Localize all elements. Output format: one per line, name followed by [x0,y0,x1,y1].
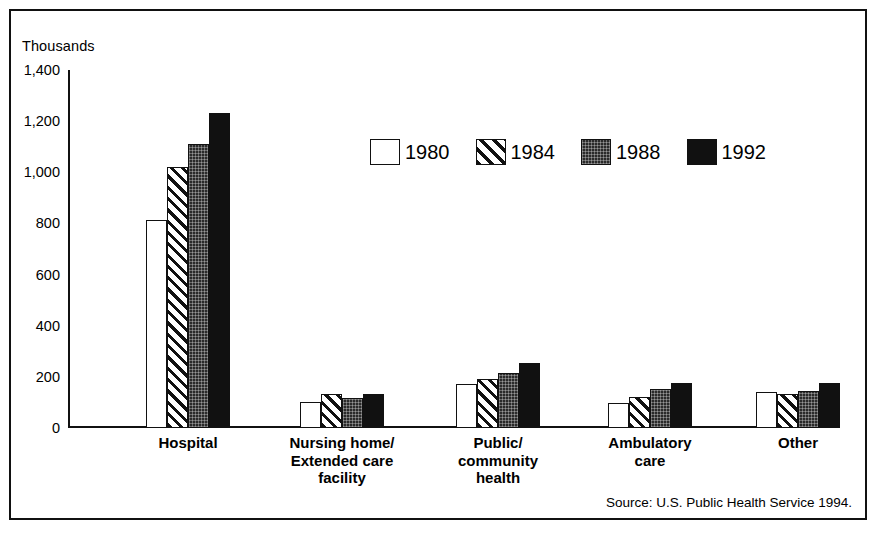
bar-1984 [629,397,650,428]
y-axis-tick-200: 200 [2,370,60,385]
bar-1988 [188,144,209,428]
chart-legend: 1980198419881992 [370,139,792,165]
bar-1988 [342,398,363,428]
bar-group [456,70,540,428]
x-axis-label-5: Other [723,434,873,452]
bar-1988 [498,373,519,428]
y-axis-units-label: Thousands [22,38,95,54]
y-axis-tick-0: 0 [2,421,60,436]
bar-1988 [798,391,819,428]
legend-label-1980: 1980 [405,142,450,162]
x-axis-category-labels: HospitalNursing home/ Extended care faci… [70,434,838,500]
y-axis-tick-400: 400 [2,318,60,333]
bar-1980 [456,384,477,428]
source-note: Source: U.S. Public Health Service 1994. [606,495,852,510]
bar-1992 [519,363,540,428]
legend-swatch-1988 [581,139,611,165]
bar-1992 [671,383,692,428]
y-axis-tick-800: 800 [2,216,60,231]
legend-label-1992: 1992 [722,142,767,162]
y-axis-tick-1200: 1,200 [2,114,60,129]
bar-1984 [321,394,342,428]
bar-1984 [477,379,498,428]
bar-group [608,70,692,428]
bar-1980 [300,402,321,428]
bar-1980 [756,392,777,428]
bar-group [146,70,230,428]
y-axis-tick-600: 600 [2,267,60,282]
legend-swatch-1980 [370,139,400,165]
bar-1980 [608,403,629,428]
bar-1992 [819,383,840,428]
x-axis-label-4: Ambulatory care [555,434,745,469]
bar-group [300,70,384,428]
figure-root: Thousands 1,4001,2001,0008006004002000 H… [0,0,876,537]
y-axis-tick-1400: 1,400 [2,63,60,78]
legend-label-1988: 1988 [616,142,661,162]
legend-label-1984: 1984 [511,142,556,162]
legend-item-1992: 1992 [687,139,767,165]
bar-1992 [363,394,384,428]
y-axis-tick-1000: 1,000 [2,165,60,180]
bar-groups [70,70,838,428]
bar-1980 [146,220,167,428]
bar-1992 [209,113,230,428]
legend-swatch-1992 [687,139,717,165]
bar-1984 [777,394,798,428]
legend-item-1984: 1984 [476,139,556,165]
legend-swatch-1984 [476,139,506,165]
bar-1988 [650,389,671,428]
legend-item-1980: 1980 [370,139,450,165]
legend-item-1988: 1988 [581,139,661,165]
bar-group [756,70,840,428]
y-axis-tick-labels: 1,4001,2001,0008006004002000 [0,70,60,428]
bar-1984 [167,167,188,428]
